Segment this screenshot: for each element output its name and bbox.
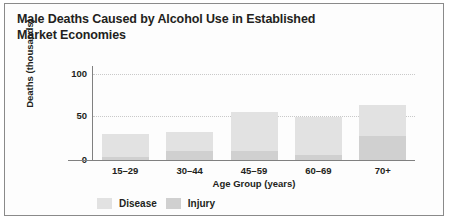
chart-figure: Male Deaths Caused by Alcohol Use in Est… [4,3,444,216]
x-axis-line [68,160,415,161]
chart-legend: Disease Injury [97,196,215,210]
bar-segment-injury [359,136,406,160]
y-axis-ticks: 100 50 0 [45,66,87,161]
bar-group[interactable] [166,132,213,160]
bar-group[interactable] [102,134,149,160]
chart-title-line-1: Male Deaths Caused by Alcohol Use in Est… [17,12,315,26]
x-tick-label: 70+ [350,165,416,176]
x-tick-label: 30–44 [157,165,223,176]
bar-segment-disease [295,117,342,155]
bar-group[interactable] [295,117,342,160]
bar-segment-disease [166,132,213,151]
plot-area [93,66,415,160]
bar-segment-disease [231,112,278,150]
bar-segment-injury [166,151,213,160]
bar-group[interactable] [359,105,406,160]
bar-group[interactable] [231,112,278,160]
y-tick-50: 50 [47,110,87,121]
bar-segment-disease [102,134,149,156]
bar-segment-injury [231,151,278,160]
x-tick-label: 60–69 [285,165,351,176]
legend-label-injury: Injury [188,198,215,209]
legend-item-injury[interactable]: Injury [166,198,215,209]
y-tick-100: 100 [47,68,87,79]
x-tick-label: 15–29 [92,165,158,176]
y-axis-label: Deaths (thousands) [24,9,35,119]
legend-label-disease: Disease [119,198,157,209]
x-axis-label: Age Group (years) [93,178,415,189]
x-tick-label: 45–59 [221,165,287,176]
bar-segment-disease [359,105,406,136]
injury-swatch-icon [166,198,181,209]
bar-segment-injury [295,155,342,160]
bar-series-container [93,66,415,160]
disease-swatch-icon [97,198,112,209]
legend-item-disease[interactable]: Disease [97,198,157,209]
chart-title: Male Deaths Caused by Alcohol Use in Est… [17,12,417,43]
bar-segment-injury [102,157,149,160]
